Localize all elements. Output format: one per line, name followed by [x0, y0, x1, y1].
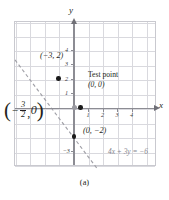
label-line-equation: 4x + 3y = −6	[108, 148, 148, 156]
data-point-minus3-2	[56, 76, 61, 81]
data-point-0-minus2	[72, 134, 77, 139]
fraction-three-halves: 32	[20, 101, 26, 119]
y-tick	[71, 50, 74, 51]
figure-coordinate-plane: y x	[0, 0, 169, 200]
label-test-point-coords: (0, 0)	[88, 81, 104, 89]
y-tick	[71, 93, 74, 94]
label-point-minus-three-halves-0: (−32,0)	[4, 101, 44, 119]
label-point-0-minus2: (0, −2)	[83, 127, 106, 136]
y-axis-label: y	[69, 6, 73, 15]
y-tick-label: 1	[65, 90, 68, 96]
paren-close: )	[37, 102, 44, 119]
x-tick-label: 4	[130, 112, 133, 118]
line-4x-plus-3y-equals-minus-6	[15, 22, 157, 167]
x-tick-label: 1	[87, 112, 90, 118]
y-tick	[71, 79, 74, 80]
plot-area: 1 2 3 4 4 3 2 1 −3	[14, 21, 156, 166]
y-tick	[71, 151, 74, 152]
y-tick-label: 2	[65, 76, 68, 82]
label-test-point-title: Test point	[88, 71, 118, 79]
y-tick-label: 4	[65, 47, 68, 53]
y-tick-label: 3	[65, 61, 68, 67]
y-tick	[71, 64, 74, 65]
figure-caption: (a)	[0, 178, 169, 187]
fraction-numerator: 3	[20, 101, 26, 110]
test-point-origin-marker	[72, 105, 77, 110]
x-tick-label: 2	[101, 112, 104, 118]
y-axis-arrow-icon	[71, 18, 77, 24]
fraction-denominator: 2	[20, 111, 26, 120]
x-axis-arrow-icon	[154, 105, 160, 111]
data-point-minus-three-halves-0	[78, 105, 83, 110]
y-tick-label: −3	[63, 148, 70, 154]
paren-open: (	[4, 102, 11, 119]
label-point-minus3-2: (−3, 2)	[40, 52, 63, 61]
x-tick-label: 3	[116, 112, 119, 118]
fraction-minus-sign: −	[11, 105, 19, 116]
